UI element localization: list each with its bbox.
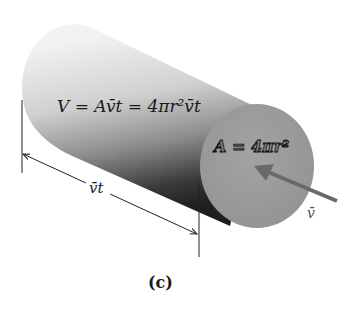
- figure-label: (c): [148, 273, 173, 292]
- cylinder-diagram: V = Av̄t = 4πr²v̄t A = 4πr² v̄t v̄ (c): [0, 0, 348, 309]
- velocity-label: v̄: [307, 205, 315, 221]
- length-label: v̄t: [89, 179, 104, 197]
- area-equation: A = 4πr²: [212, 137, 289, 156]
- length-dimension-line-a: [23, 154, 86, 183]
- volume-equation: V = Av̄t = 4πr²v̄t: [57, 96, 201, 116]
